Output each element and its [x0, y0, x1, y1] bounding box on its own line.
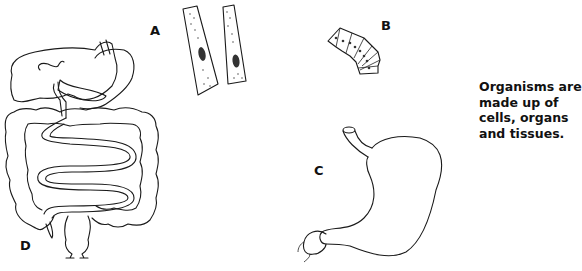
rectum-shape — [65, 216, 91, 258]
label-d: D — [20, 239, 31, 252]
liver-shape — [11, 42, 117, 102]
tissue-nuclei — [335, 37, 371, 70]
tissue-cell-walls — [336, 28, 380, 70]
label-c: C — [314, 164, 324, 177]
caption-line: cells, organs — [479, 110, 582, 126]
muscle-cell-2 — [223, 5, 246, 84]
muscle-cell-1-nucleus — [197, 46, 207, 61]
tissue-outline — [328, 28, 380, 74]
caption-line: made up of — [479, 95, 582, 111]
duodenum-shape — [53, 82, 66, 118]
caption-line: and tissues. — [479, 126, 582, 142]
gall-bladder-shape — [38, 61, 64, 70]
caption: Organisms are made up of cells, organs a… — [479, 79, 582, 141]
small-intestine-inner — [46, 124, 136, 218]
oesophagus-tube — [343, 131, 372, 157]
label-b: B — [381, 19, 391, 32]
stomach-body — [320, 136, 442, 255]
pancreas-shape — [58, 80, 106, 101]
caption-line: Organisms are — [479, 79, 582, 95]
muscle-cell-2-nucleus — [232, 54, 241, 68]
muscle-cells-illustration — [183, 5, 246, 95]
oesophagus-opening — [343, 127, 355, 133]
stomach-illustration — [298, 127, 442, 262]
epithelial-tissue-illustration — [328, 28, 380, 74]
label-a: A — [150, 24, 160, 37]
digestive-system-illustration — [5, 40, 158, 258]
